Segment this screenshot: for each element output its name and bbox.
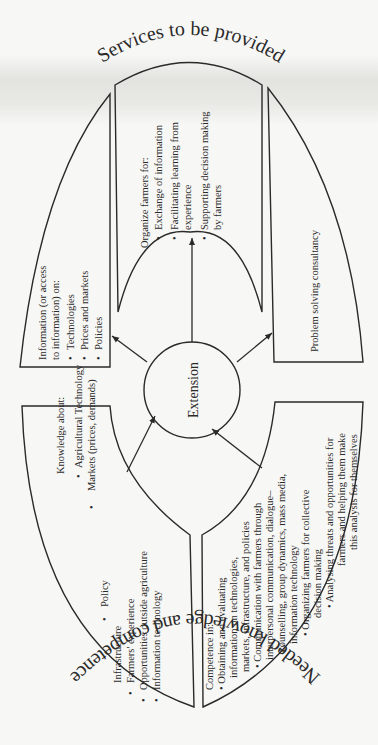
- svg-text:•: •: [99, 617, 110, 621]
- svg-text:• Analysing threats and opport: • Analysing threats and opportunities fo…: [324, 437, 335, 608]
- svg-text:Information (or access: Information (or access: [37, 266, 49, 360]
- services-title: Services to be provided: [93, 17, 289, 67]
- svg-text:• Organizing farmers for colle: • Organizing farmers for collective: [300, 489, 311, 636]
- svg-text:Competence in:: Competence in:: [204, 624, 215, 690]
- svg-text:to information) on:: to information) on:: [50, 280, 62, 360]
- svg-text:Problem solving consultancy: Problem solving consultancy: [309, 229, 320, 352]
- svg-text:Policy: Policy: [99, 579, 110, 607]
- svg-text:• Obtaining and evaluating: • Obtaining and evaluating: [216, 577, 227, 690]
- arrow-from-knowledge: [127, 416, 155, 472]
- svg-text:Farmers' experience: Farmers' experience: [125, 598, 136, 683]
- svg-text:•: •: [125, 691, 136, 695]
- svg-text:• Communication with farmers t: • Communication with farmers through: [252, 502, 263, 668]
- svg-text:Organize farmers for:: Organize farmers for:: [139, 157, 150, 248]
- svg-text:Policies: Policies: [93, 317, 104, 350]
- svg-text:Agricultural Technology: Agricultural Technology: [73, 364, 84, 468]
- svg-text:experience: experience: [182, 184, 193, 230]
- svg-text:by farmers: by farmers: [212, 185, 223, 230]
- knowledge-text: Knowledge about:: [55, 397, 66, 474]
- svg-text:•: •: [73, 474, 84, 478]
- bullet: •: [93, 356, 104, 360]
- svg-text:Information technology: Information technology: [151, 590, 162, 690]
- svg-text:Supporting decision making: Supporting decision making: [199, 111, 210, 230]
- competence-text: Competence in: • Obtaining and evaluatin…: [204, 433, 359, 690]
- svg-text:decision making: decision making: [312, 548, 323, 618]
- svg-text:•: •: [86, 505, 97, 509]
- svg-text:•: •: [199, 236, 210, 240]
- svg-text:this analysis for themselves: this analysis for themselves: [348, 434, 359, 550]
- svg-text:•: •: [169, 236, 180, 240]
- information-text: Information (or access to information) o…: [37, 266, 104, 360]
- svg-text:Prices and markets: Prices and markets: [79, 271, 90, 350]
- svg-text:information technology: information technology: [288, 544, 299, 644]
- arrow-from-competence: [212, 429, 262, 468]
- svg-text:•: •: [138, 698, 149, 702]
- extension-services-diagram: Services to be provided Needed knowledge…: [0, 0, 378, 745]
- svg-text:Exchange of information: Exchange of information: [153, 124, 164, 230]
- bullet: •: [65, 356, 76, 360]
- svg-text:counselling, group dynamics, m: counselling, group dynamics, mass media,: [276, 474, 287, 652]
- svg-text:Knowledge about:: Knowledge about:: [55, 397, 66, 474]
- svg-text:farmers and helping them make: farmers and helping them make: [336, 433, 347, 566]
- extension-label: Extension: [186, 362, 201, 418]
- svg-text:information on technologies,: information on technologies,: [228, 557, 239, 678]
- arrow-to-consultancy: [237, 333, 272, 362]
- svg-text:Facilitating learning from: Facilitating learning from: [169, 122, 180, 230]
- svg-text:Markets (prices, demands): Markets (prices, demands): [86, 379, 98, 491]
- consultancy-text: Problem solving consultancy: [309, 229, 320, 352]
- svg-text:Opportunities outside agricult: Opportunities outside agriculture: [138, 551, 149, 690]
- organize-text: Organize farmers for: • Exchange of info…: [139, 111, 223, 248]
- svg-text:markets, infrastructure, and p: markets, infrastructure, and policies: [240, 521, 251, 672]
- svg-text:Technologies: Technologies: [65, 294, 76, 350]
- svg-text:•: •: [151, 698, 162, 702]
- bullet: •: [79, 356, 90, 360]
- svg-text:Infrastructure: Infrastructure: [112, 626, 123, 683]
- svg-text:interpersonal communication, d: interpersonal communication, dialogue–: [264, 490, 275, 660]
- arrow-to-information: [112, 336, 147, 362]
- svg-text:•: •: [153, 236, 164, 240]
